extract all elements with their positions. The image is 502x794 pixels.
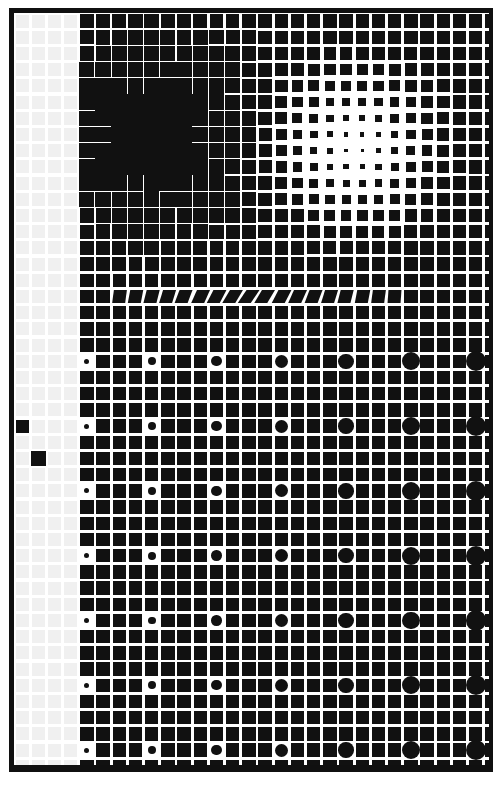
- halftone-square-mark: [437, 565, 450, 578]
- halftone-square-mark: [258, 387, 271, 400]
- halftone-square-mark: [129, 371, 142, 384]
- halftone-ghost-cell: [64, 727, 77, 740]
- halftone-square-mark: [96, 208, 111, 223]
- halftone-square-mark: [194, 533, 207, 546]
- halftone-square-mark: [275, 371, 288, 384]
- halftone-ghost-cell: [48, 209, 61, 222]
- halftone-ghost-cell: [64, 387, 77, 400]
- halftone-ghost-cell: [32, 582, 45, 595]
- halftone-ghost-cell: [48, 290, 61, 303]
- halftone-square-mark: [372, 436, 385, 449]
- halftone-square-mark: [96, 468, 109, 481]
- halftone-ghost-cell: [32, 47, 45, 60]
- halftone-square-mark: [145, 711, 158, 724]
- halftone-square-mark: [95, 94, 111, 110]
- halftone-square-mark: [469, 176, 482, 189]
- halftone-square-mark: [193, 257, 207, 271]
- halftone-square-mark: [420, 468, 433, 481]
- halftone-square-mark: [226, 403, 239, 416]
- halftone-square-mark: [129, 338, 142, 351]
- halftone-square-mark: [437, 646, 450, 659]
- halftone-square-mark: [404, 468, 417, 481]
- halftone-square-mark: [160, 224, 175, 239]
- halftone-square-mark: [275, 47, 288, 60]
- halftone-square-mark: [258, 646, 271, 659]
- halftone-ghost-cell: [64, 436, 77, 449]
- halftone-square-mark: [144, 191, 160, 207]
- halftone-square-mark: [453, 452, 466, 465]
- halftone-ghost-cell: [48, 549, 61, 562]
- halftone-square-mark: [420, 679, 433, 692]
- halftone-square-mark: [275, 581, 288, 594]
- halftone-square-mark: [323, 711, 336, 724]
- halftone-square-mark: [372, 403, 385, 416]
- halftone-square-mark: [420, 355, 433, 368]
- halftone-square-mark: [177, 614, 190, 627]
- halftone-square-mark: [437, 533, 450, 546]
- halftone-square-mark: [323, 549, 336, 562]
- halftone-square-mark: [420, 14, 433, 27]
- halftone-square-mark: [323, 14, 336, 27]
- halftone-square-mark: [469, 565, 482, 578]
- halftone-square-mark: [388, 387, 401, 400]
- halftone-square-mark: [276, 161, 287, 172]
- halftone-square-mark: [437, 31, 450, 44]
- halftone-square-mark: [453, 112, 466, 125]
- halftone-ghost-cell: [32, 549, 45, 562]
- halftone-square-mark: [128, 224, 143, 239]
- halftone-square-mark: [95, 78, 111, 94]
- halftone-square-mark: [160, 62, 176, 78]
- halftone-square-mark: [372, 549, 385, 562]
- halftone-square-mark: [323, 436, 336, 449]
- halftone-square-mark: [177, 419, 190, 432]
- halftone-square-mark: [96, 500, 109, 513]
- halftone-square-mark: [242, 743, 255, 756]
- halftone-square-mark: [291, 598, 304, 611]
- halftone-ghost-cell: [32, 517, 45, 530]
- halftone-square-mark: [469, 193, 482, 206]
- halftone-square-mark: [437, 679, 450, 692]
- halftone-square-mark: [194, 452, 207, 465]
- halftone-square-mark: [194, 630, 207, 643]
- halftone-ghost-cell: [32, 306, 45, 319]
- halftone-ghost-cell: [48, 371, 61, 384]
- halftone-square-mark: [128, 62, 144, 78]
- halftone-square-mark: [485, 565, 489, 578]
- halftone-square-mark: [144, 14, 158, 28]
- halftone-square-mark: [113, 695, 126, 708]
- halftone-skew-mark: [112, 290, 127, 303]
- halftone-square-mark: [192, 127, 208, 143]
- halftone-square-mark: [323, 743, 336, 756]
- halftone-ghost-cell: [48, 193, 61, 206]
- halftone-square-mark: [469, 436, 482, 449]
- halftone-square-mark: [129, 630, 142, 643]
- halftone-square-mark: [437, 419, 450, 432]
- halftone-square-mark: [437, 614, 450, 627]
- halftone-square-mark: [356, 614, 369, 627]
- halftone-square-mark: [258, 500, 271, 513]
- halftone-square-mark: [79, 78, 94, 93]
- halftone-square-mark: [96, 711, 109, 724]
- halftone-square-mark: [293, 146, 302, 155]
- halftone-square-mark: [129, 727, 142, 740]
- halftone-ghost-cell: [16, 31, 29, 44]
- halftone-square-mark: [226, 484, 239, 497]
- halftone-square-mark: [356, 436, 369, 449]
- halftone-square-mark: [226, 387, 239, 400]
- halftone-square-mark: [372, 711, 385, 724]
- halftone-square-mark: [129, 565, 142, 578]
- halftone-square-mark: [453, 176, 466, 189]
- halftone-square-mark: [95, 192, 110, 207]
- halftone-ghost-cell: [32, 695, 45, 708]
- halftone-square-mark: [453, 695, 466, 708]
- halftone-square-mark: [193, 78, 209, 94]
- halftone-ghost-cell: [48, 646, 61, 659]
- halftone-square-mark: [194, 581, 207, 594]
- halftone-square-mark: [437, 662, 450, 675]
- halftone-square-mark: [469, 322, 482, 335]
- halftone-square-mark: [161, 533, 174, 546]
- halftone-square-mark: [210, 387, 223, 400]
- halftone-square-mark: [372, 468, 385, 481]
- halftone-ghost-cell: [64, 177, 77, 190]
- halftone-square-mark: [388, 662, 401, 675]
